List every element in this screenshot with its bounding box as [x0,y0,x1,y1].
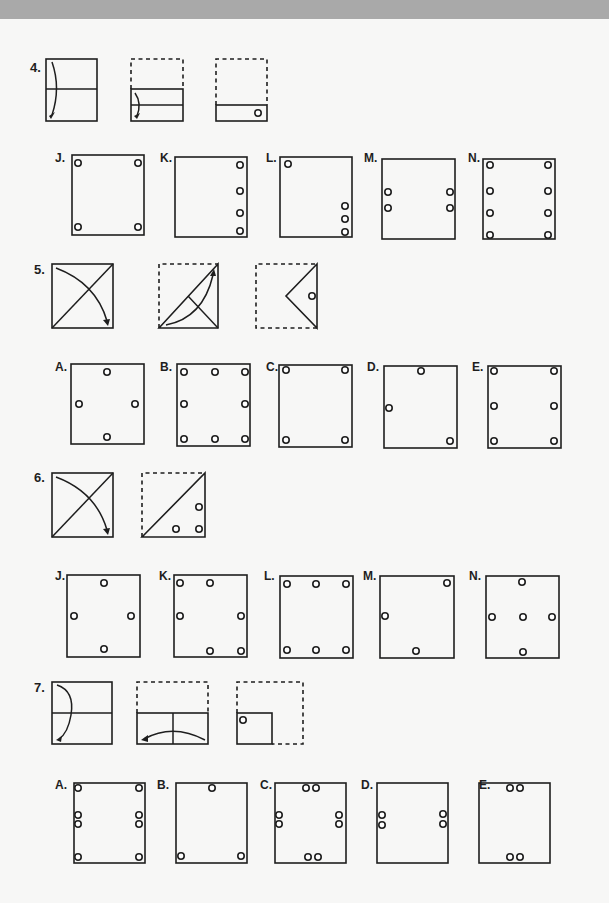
q5-step2-fold-diagram [158,263,220,329]
q6-step1-fold-diagram [51,472,114,538]
question-5-number: 5. [34,264,45,276]
choice-K-label: K. [160,152,172,164]
scan-top-band [0,0,609,19]
q5-step3-punch-diagram [255,263,320,329]
q5-choice-C[interactable] [278,364,353,448]
choice-C-label: C. [266,361,278,373]
punch-hole [173,526,179,532]
q7-step2-fold-diagram [136,681,210,745]
choice-D-label: D. [367,361,379,373]
q5-choice-D[interactable] [383,365,458,449]
fold-arrow-icon [166,275,213,325]
q4-step2-fold-diagram [130,58,184,122]
q6-choice-J[interactable] [66,574,141,658]
choice-D-label: D. [361,779,373,791]
choice-M-label: M. [363,570,376,582]
punch-hole [240,717,246,723]
q5-step1-fold-diagram [51,263,114,329]
q4-step1-fold-diagram [45,58,98,122]
fold-arrow-icon [56,268,107,321]
question-6-number: 6. [34,472,45,484]
q4-choice-K[interactable] [174,156,248,238]
q5-choice-A[interactable] [70,363,145,445]
punch-hole [196,526,202,532]
q4-step3-punch-diagram [215,58,268,122]
q5-choice-E[interactable] [487,365,562,449]
choice-B-label: B. [160,361,172,373]
q4-choice-N[interactable] [482,158,556,240]
choice-A-label: A. [55,779,67,791]
q7-choice-D[interactable] [376,782,449,864]
choice-N-label: N. [469,570,481,582]
q7-step3-punch-diagram [236,681,305,745]
q6-choice-L[interactable] [279,575,354,659]
punch-hole [309,293,315,299]
q6-choice-N[interactable] [485,575,560,659]
choice-C-label: C. [260,779,272,791]
choice-J-label: J. [55,152,65,164]
q7-choice-C[interactable] [274,782,347,864]
choice-M-label: M. [364,152,377,164]
q6-choice-M[interactable] [379,575,455,659]
q7-choice-B[interactable] [175,782,248,864]
question-7-number: 7. [34,682,45,694]
choice-L-label: L. [266,152,277,164]
question-4-number: 4. [30,62,41,74]
choice-B-label: B. [157,779,169,791]
q4-choice-M[interactable] [381,158,457,240]
choice-E-label: E. [472,361,483,373]
q6-choice-K[interactable] [173,574,248,658]
punch-hole [196,504,202,510]
punch-hole [255,110,261,116]
choice-A-label: A. [55,361,67,373]
q5-choice-B[interactable] [176,363,251,447]
q4-choice-L[interactable] [279,156,353,238]
fold-arrow-icon [144,731,205,740]
fold-arrow-icon [56,477,107,530]
q7-step1-fold-diagram [51,681,113,745]
choice-K-label: K. [159,570,171,582]
choice-L-label: L. [264,570,275,582]
q4-choice-J[interactable] [71,154,145,236]
fold-arrow-icon [57,685,72,739]
q6-step2-punch-diagram [141,472,207,538]
q7-choice-A[interactable] [73,782,146,864]
choice-J-label: J. [55,570,65,582]
choice-N-label: N. [468,152,480,164]
q7-choice-E[interactable] [478,782,551,864]
